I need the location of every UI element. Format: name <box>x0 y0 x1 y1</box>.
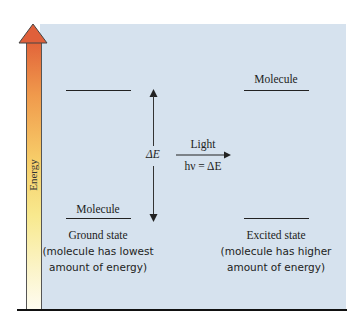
ground-level-line <box>66 218 131 219</box>
baseline <box>17 309 347 311</box>
ground-molecule-label: Molecule <box>76 203 119 215</box>
energy-gap-label: ΔE <box>146 148 160 160</box>
transition-equation-label: hν = ΔE <box>185 160 222 172</box>
transition-light-label: Light <box>191 138 216 150</box>
transition-arrow-icon <box>176 151 232 159</box>
excited-state-desc-2: amount of energy) <box>227 259 325 275</box>
energy-arrow-head-icon <box>18 23 48 44</box>
gap-arrow-lower-shaft <box>153 166 154 216</box>
gap-arrow-upper-shaft <box>153 96 154 146</box>
excited-level-line <box>244 90 309 91</box>
ground-state-desc-2: amount of energy) <box>49 259 147 275</box>
excited-molecule-label: Molecule <box>254 73 297 85</box>
excited-state-title: Excited state <box>246 229 305 241</box>
lower-level-line-right <box>244 218 309 219</box>
ground-state-desc-1: (molecule has lowest <box>42 243 153 259</box>
ground-state-title: Ground state <box>68 229 127 241</box>
excited-state-desc-1: (molecule has higher <box>221 243 332 259</box>
upper-level-line-left <box>66 90 131 91</box>
gap-arrow-down-icon <box>149 214 158 222</box>
energy-axis-label: Energy <box>27 159 39 191</box>
